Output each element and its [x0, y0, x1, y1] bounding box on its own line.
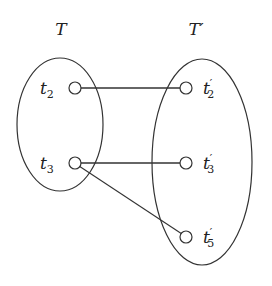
label-t5p: t′5 [203, 226, 214, 250]
bipartite-diagram: T T′ t2 t3 t′2 t′3 t′5 [0, 0, 272, 286]
label-t3: t3 [40, 153, 54, 176]
set-label-T: T [55, 19, 68, 39]
label-t2p: t′2 [203, 77, 214, 101]
set-T-prime-ellipse [152, 59, 252, 265]
label-t2: t2 [40, 78, 54, 101]
node-t3 [69, 157, 81, 169]
edge-t3-t5p [79, 166, 182, 234]
node-t2 [69, 82, 81, 94]
node-t3p [180, 157, 192, 169]
label-t3p: t′3 [203, 152, 214, 176]
set-label-T-prime: T′ [188, 19, 203, 39]
node-t5p [180, 231, 192, 243]
node-t2p [180, 82, 192, 94]
set-T-ellipse [17, 58, 103, 191]
